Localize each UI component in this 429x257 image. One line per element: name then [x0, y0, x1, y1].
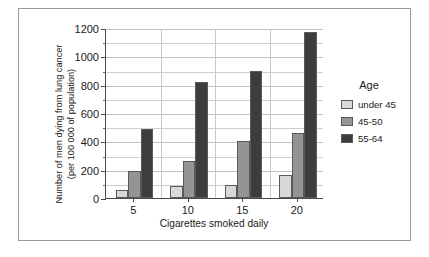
x-axis-tick-label-20: 20 [291, 204, 303, 216]
bar-5-under-45 [116, 190, 129, 198]
y-axis-tick-200 [101, 171, 106, 172]
x-axis-tick-label-5: 5 [130, 204, 136, 216]
legend-title: Age [341, 79, 411, 91]
x-axis-tick-5 [133, 198, 134, 202]
bar-15-55-64 [250, 71, 263, 199]
group-separator-2 [215, 29, 216, 198]
legend-item-55-64: 55-64 [341, 133, 411, 144]
group-separator-1 [161, 29, 162, 198]
bar-10-45-50 [183, 161, 196, 198]
x-axis-tick-label-15: 15 [236, 204, 248, 216]
chart-figure: Number of men dying from lung cancer (pe… [18, 8, 411, 241]
legend-label: 55-64 [358, 133, 383, 144]
y-axis-title: Number of men dying from lung cancer (pe… [53, 24, 77, 224]
y-axis-tick-500 [103, 128, 106, 129]
y-axis-tick-300 [103, 157, 106, 158]
legend-rows: under 4545-5055-64 [341, 99, 411, 144]
bar-5-45-50 [128, 171, 141, 198]
bar-20-under-45 [279, 175, 292, 198]
bar-20-55-64 [304, 32, 317, 198]
legend-label: under 45 [358, 99, 396, 110]
y-axis-tick-1200 [101, 29, 106, 30]
legend-swatch-icon-under-45 [341, 100, 353, 109]
legend-swatch-icon-45-50 [341, 117, 353, 126]
y-axis-title-line1: Number of men dying from lung cancer [54, 45, 64, 204]
y-axis-tick-100 [103, 185, 106, 186]
x-axis-tick-15 [242, 198, 243, 202]
legend-swatch-icon-55-64 [341, 134, 353, 143]
bar-10-under-45 [170, 186, 183, 198]
bar-20-45-50 [292, 133, 305, 198]
legend: Age under 4545-5055-64 [341, 79, 411, 150]
bar-15-45-50 [237, 141, 250, 198]
y-axis-tick-1000 [101, 57, 106, 58]
x-axis-title: Cigarettes smoked daily [105, 218, 323, 229]
legend-item-under-45: under 45 [341, 99, 411, 110]
y-axis-tick-400 [101, 142, 106, 143]
bar-15-under-45 [225, 185, 238, 198]
legend-item-45-50: 45-50 [341, 116, 411, 127]
y-axis-tick-700 [103, 100, 106, 101]
y-axis-tick-label-800: 800 [81, 80, 99, 92]
y-axis-tick-label-1000: 1000 [75, 51, 99, 63]
y-axis-title-container: Number of men dying from lung cancer (pe… [19, 9, 59, 242]
plot-area: 0200400600800100012005101520 [105, 29, 323, 199]
y-axis-tick-900 [103, 72, 106, 73]
y-axis-tick-label-1200: 1200 [75, 23, 99, 35]
y-axis-tick-800 [101, 86, 106, 87]
y-axis-tick-label-200: 200 [81, 165, 99, 177]
y-axis-tick-label-400: 400 [81, 136, 99, 148]
y-axis-tick-0 [101, 199, 106, 200]
group-separator-3 [270, 29, 271, 198]
x-axis-tick-10 [188, 198, 189, 202]
x-axis-tick-label-10: 10 [182, 204, 194, 216]
plot-inner: 0200400600800100012005101520 [106, 29, 323, 198]
y-axis-tick-label-0: 0 [93, 193, 99, 205]
bar-10-55-64 [195, 82, 208, 198]
legend-label: 45-50 [358, 116, 383, 127]
y-axis-tick-1100 [103, 43, 106, 44]
y-axis-tick-label-600: 600 [81, 108, 99, 120]
y-axis-tick-600 [101, 114, 106, 115]
bar-5-55-64 [141, 129, 154, 198]
x-axis-tick-20 [297, 198, 298, 202]
